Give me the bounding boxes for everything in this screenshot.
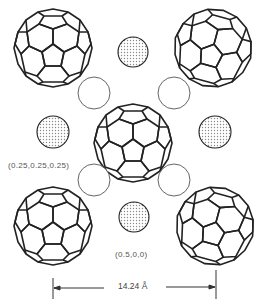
fullerene-bottom-left xyxy=(14,187,92,265)
tetrahedral-site-lower-left xyxy=(78,164,110,196)
arrowhead-right-icon xyxy=(209,285,215,289)
tetrahedral-site-upper-right xyxy=(158,77,190,109)
arrowhead-left-icon xyxy=(54,286,60,290)
octahedral-site-bottom xyxy=(119,202,149,232)
octahedral-site-label: (0.5,0,0) xyxy=(115,250,148,259)
tetrahedral-sites xyxy=(78,77,190,196)
tetrahedral-site-label: (0.25,0.25,0.25) xyxy=(8,161,69,170)
octahedral-site-right xyxy=(199,116,231,148)
tetrahedral-site-lower-right xyxy=(158,164,190,196)
fullerene-top-left xyxy=(14,9,92,87)
octahedral-site-top xyxy=(118,37,148,67)
lattice-constant-label: 14.24 Å xyxy=(118,281,147,291)
tetrahedral-site-upper-left xyxy=(78,77,110,109)
octahedral-site-left xyxy=(37,116,69,148)
